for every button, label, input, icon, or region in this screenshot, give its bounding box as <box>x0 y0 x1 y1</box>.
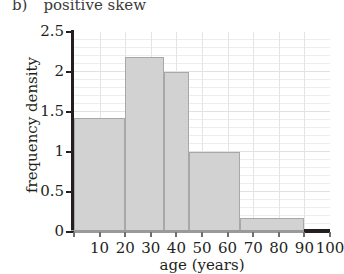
plot-area <box>74 32 330 232</box>
x-axis-spine-endcap <box>304 229 330 233</box>
x-axis-tick <box>175 232 177 237</box>
x-axis-tick <box>252 232 254 237</box>
x-axis-tick <box>73 232 75 237</box>
histogram-bar <box>74 118 125 232</box>
y-axis-tick <box>66 151 74 153</box>
gridline-vertical <box>304 32 305 232</box>
caption-label: b) <box>12 0 27 14</box>
histogram-bar <box>164 72 190 232</box>
histogram-bar <box>125 57 163 232</box>
y-axis-spine <box>71 30 74 233</box>
x-axis-tick <box>150 232 152 237</box>
gridline-vertical <box>279 32 280 232</box>
y-axis-tick <box>66 71 74 73</box>
x-axis-tick <box>99 232 101 237</box>
x-axis-tick <box>329 232 331 237</box>
x-axis-tick <box>227 232 229 237</box>
x-axis-tick-label: 100 <box>310 240 344 256</box>
y-axis-title: frequency density <box>23 25 41 225</box>
x-axis-tick <box>124 232 126 237</box>
y-axis-tick <box>66 191 74 193</box>
histogram-bar <box>189 152 240 232</box>
gridline-vertical <box>253 32 254 232</box>
caption-text: positive skew <box>43 0 146 14</box>
x-axis-tick <box>201 232 203 237</box>
y-axis-tick-label: 0 <box>18 224 64 239</box>
x-axis-tick <box>278 232 280 237</box>
x-axis-tick <box>303 232 305 237</box>
y-axis-tick <box>66 31 74 33</box>
x-axis-title: age (years) <box>74 256 330 274</box>
y-axis-tick <box>66 111 74 113</box>
figure: b) positive skew 00.511.522.5 1020304050… <box>0 0 344 274</box>
figure-caption: b) positive skew <box>12 0 146 16</box>
